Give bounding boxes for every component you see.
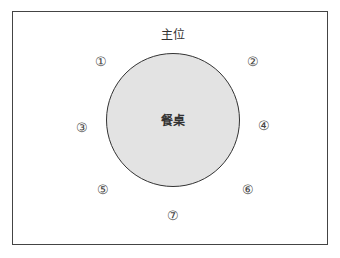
seat-2: ② (247, 55, 259, 69)
seat-1: ① (95, 55, 107, 69)
seat-4: ④ (258, 119, 270, 133)
seat-5: ⑤ (97, 183, 109, 197)
seat-6: ⑥ (242, 183, 254, 197)
head-seat-label: 主位 (161, 28, 185, 42)
seat-3: ③ (76, 121, 88, 135)
table-label: 餐桌 (161, 114, 185, 128)
seat-7: ⑦ (167, 209, 179, 223)
